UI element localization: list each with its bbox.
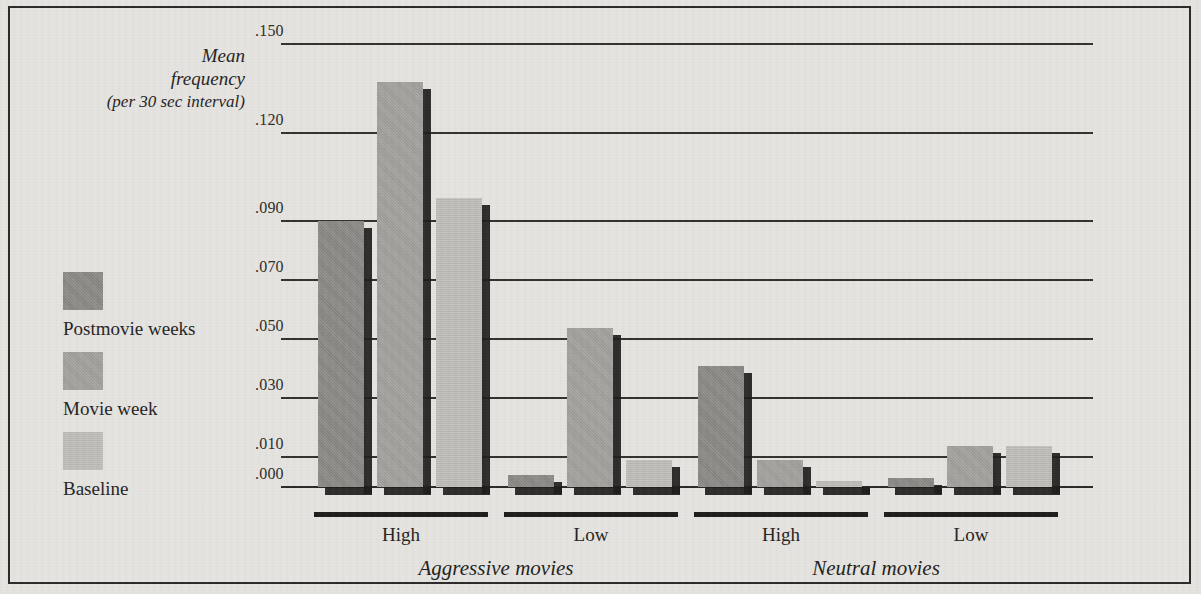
y-tick-label-010: .010 (255, 435, 301, 453)
group-label-low-1: Low (504, 524, 678, 546)
y-axis-label: Mean frequency (per 30 sec interval) (60, 44, 245, 113)
y-axis-label-line-3: (per 30 sec interval) (60, 90, 245, 113)
bar-baseline-group-2 (626, 460, 672, 487)
y-tick-label-150: .150 (255, 22, 301, 40)
bar-face (626, 460, 672, 487)
bar-shadow-bottom (705, 487, 752, 495)
bar-movie-week-group-2 (567, 328, 613, 487)
bar-shadow-bottom (633, 487, 680, 495)
group-label-high-2: High (694, 524, 868, 546)
legend-item-postmovie-weeks: Postmovie weeks (63, 272, 238, 352)
bar-shadow-bottom (325, 487, 372, 495)
bar-face (436, 198, 482, 487)
bar-shadow-bottom (764, 487, 811, 495)
bar-postmovie-weeks-group-3 (698, 366, 744, 487)
bar-shadow-bottom (895, 487, 942, 495)
legend-swatch-movie-week (63, 352, 103, 390)
bar-postmovie-weeks-group-2 (508, 475, 554, 487)
bar-shadow-right (613, 335, 621, 494)
bar-face (1006, 446, 1052, 487)
y-tick-label-000: .000 (255, 465, 301, 483)
bar-shadow-bottom (954, 487, 1001, 495)
bar-face (698, 366, 744, 487)
y-tick-label-050: .050 (255, 317, 301, 335)
bar-baseline-group-3 (816, 481, 862, 487)
group-bracket-0 (314, 512, 488, 517)
bar-face (888, 478, 934, 487)
group-bracket-1 (504, 512, 678, 517)
y-tick-label-120: .120 (255, 111, 301, 129)
y-axis-label-line-2: frequency (60, 67, 245, 90)
y-tick-label-030: .030 (255, 376, 301, 394)
bar-movie-week-group-3 (757, 460, 803, 487)
bar-shadow-bottom (384, 487, 431, 495)
bar-shadow-right (423, 89, 431, 494)
bar-shadow-bottom (1013, 487, 1060, 495)
bar-shadow-right (364, 228, 372, 494)
legend-item-movie-week: Movie week (63, 352, 238, 432)
legend: Postmovie weeks Movie week Baseline (63, 272, 238, 512)
bar-shadow-right (744, 373, 752, 494)
bar-face (377, 82, 423, 487)
legend-label-baseline: Baseline (63, 478, 128, 500)
bar-postmovie-weeks-group-4 (888, 478, 934, 487)
bar-face (567, 328, 613, 487)
group-bracket-2 (694, 512, 868, 517)
bar-shadow-right (482, 205, 490, 494)
bar-movie-week-group-1 (377, 82, 423, 487)
legend-swatch-postmovie-weeks (63, 272, 103, 310)
legend-item-baseline: Baseline (63, 432, 238, 512)
gridline-150 (281, 43, 1093, 45)
figure-plate: Mean frequency (per 30 sec interval) Pos… (0, 0, 1201, 594)
bar-movie-week-group-4 (947, 446, 993, 487)
bar-shadow-bottom (823, 487, 870, 495)
bar-shadow-bottom (574, 487, 621, 495)
y-tick-label-070: .070 (255, 258, 301, 276)
plot-area: .150.120.090.070.050.030.010.000 (255, 20, 1093, 490)
legend-label-postmovie-weeks: Postmovie weeks (63, 318, 195, 340)
bar-face (947, 446, 993, 487)
group-label-low-3: Low (884, 524, 1058, 546)
legend-swatch-baseline (63, 432, 103, 470)
bar-shadow-bottom (515, 487, 562, 495)
panel-label-neutral-movies: Neutral movies (694, 556, 1058, 581)
legend-label-movie-week: Movie week (63, 398, 157, 420)
group-label-high-0: High (314, 524, 488, 546)
bar-postmovie-weeks-group-1 (318, 221, 364, 487)
y-axis-label-line-1: Mean (60, 44, 245, 67)
bar-baseline-group-1 (436, 198, 482, 487)
bar-baseline-group-4 (1006, 446, 1052, 487)
y-tick-label-090: .090 (255, 199, 301, 217)
panel-label-aggressive-movies: Aggressive movies (314, 556, 678, 581)
group-bracket-3 (884, 512, 1058, 517)
bar-shadow-bottom (443, 487, 490, 495)
bar-face (508, 475, 554, 487)
bar-face (757, 460, 803, 487)
bar-face (318, 221, 364, 487)
